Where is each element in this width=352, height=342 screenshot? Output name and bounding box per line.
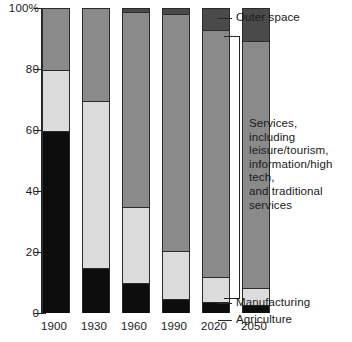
services-bracket-top-arm	[224, 36, 240, 37]
bar-segment	[43, 131, 69, 313]
bar-1960[interactable]	[122, 8, 150, 313]
bar-segment	[123, 207, 149, 283]
bar-segment	[203, 9, 229, 30]
y-tick-label-60: 60	[26, 125, 39, 137]
callout-services: Services, including leisure/tourism, inf…	[249, 117, 352, 212]
outer-space-leader	[218, 18, 232, 19]
callout-outer-space: Outer space	[236, 11, 300, 25]
y-tick-label-80: 80	[26, 64, 39, 76]
chart-figure: 100% 80 60 40 20 0 1900 1930 1960 1990 2…	[0, 0, 352, 342]
callout-manufacturing: Manufacturing	[236, 296, 310, 310]
bar-1900[interactable]	[42, 8, 70, 313]
callout-agriculture: Agriculture	[236, 313, 292, 327]
bar-segment	[203, 30, 229, 277]
bar-segment	[123, 283, 149, 313]
bar-segment	[163, 299, 189, 313]
bar-1930[interactable]	[82, 8, 110, 313]
bar-segment	[43, 9, 69, 70]
x-label-1930: 1930	[74, 320, 114, 332]
x-label-1960: 1960	[114, 320, 154, 332]
bar-segment	[163, 14, 189, 252]
bar-segment	[163, 251, 189, 298]
x-label-2020: 2020	[194, 320, 234, 332]
bar-segment	[123, 12, 149, 207]
services-bracket-spine	[239, 36, 240, 299]
bar-segment	[83, 101, 109, 269]
x-label-1900: 1900	[34, 320, 74, 332]
bar-segment	[83, 9, 109, 101]
plot-area	[42, 8, 218, 313]
y-tick-label-20: 20	[26, 247, 39, 259]
bar-segment	[43, 70, 69, 131]
y-tick-label-0: 0	[32, 308, 39, 320]
bar-segment	[83, 268, 109, 313]
y-axis-bottom-cap	[41, 313, 46, 314]
bar-2020[interactable]	[202, 8, 230, 313]
x-label-1990: 1990	[154, 320, 194, 332]
y-tick-label-40: 40	[26, 186, 39, 198]
y-tick-label-100: 100%	[9, 3, 39, 15]
manufacturing-leader	[218, 303, 232, 304]
agriculture-leader	[218, 320, 232, 321]
bar-1990[interactable]	[162, 8, 190, 313]
